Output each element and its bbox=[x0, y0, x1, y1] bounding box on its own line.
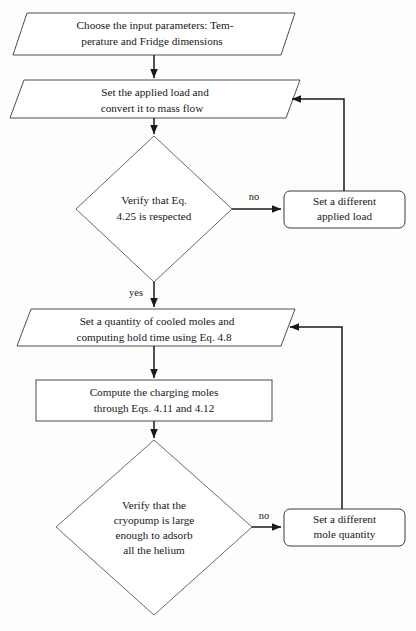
edge-label-yes-upper: yes bbox=[129, 287, 143, 298]
node-input-parameters: Choose the input parameters: Tem- peratu… bbox=[13, 13, 295, 55]
node-verify-eq-425-line-1: Verify that Eq. bbox=[121, 194, 187, 206]
node-verify-cryopump-line-1: Verify that the bbox=[122, 499, 186, 511]
node-cooled-moles-line-2: computing hold time using Eq. 4.8 bbox=[76, 331, 231, 343]
node-verify-cryopump: Verify that the cryopump is large enough… bbox=[56, 440, 252, 615]
node-different-mole-quantity-line-2: mole quantity bbox=[314, 528, 376, 540]
node-verify-cryopump-line-4: all the helium bbox=[123, 544, 185, 556]
flowchart-diagram: Choose the input parameters: Tem- peratu… bbox=[0, 0, 416, 631]
node-different-applied-load-line-2: applied load bbox=[317, 210, 372, 222]
node-verify-cryopump-line-3: enough to adsorb bbox=[115, 529, 192, 541]
node-input-parameters-line-1: Choose the input parameters: Tem- bbox=[77, 19, 234, 31]
node-different-mole-quantity-line-1: Set a different bbox=[313, 513, 377, 525]
connector-feedback-mole-quantity bbox=[290, 327, 342, 509]
node-different-mole-quantity: Set a different mole quantity bbox=[284, 509, 405, 546]
node-charging-moles-line-1: Compute the charging moles bbox=[90, 386, 219, 398]
node-verify-eq-425-line-2: 4.25 is respected bbox=[117, 210, 192, 222]
node-different-applied-load-line-1: Set a different bbox=[313, 195, 377, 207]
node-applied-load: Set the applied load and convert it to m… bbox=[10, 80, 300, 118]
node-input-parameters-line-2: perature and Fridge dimensions bbox=[81, 35, 222, 47]
edge-label-no-lower: no bbox=[259, 510, 270, 521]
node-cooled-moles-line-1: Set a quantity of cooled moles and bbox=[80, 315, 235, 327]
node-applied-load-line-1: Set the applied load and bbox=[101, 86, 209, 98]
node-charging-moles-line-2: through Eqs. 4.11 and 4.12 bbox=[94, 402, 214, 414]
node-applied-load-line-2: convert it to mass flow bbox=[101, 102, 204, 114]
node-verify-cryopump-line-2: cryopump is large bbox=[114, 514, 195, 526]
node-verify-eq-425: Verify that Eq. 4.25 is respected bbox=[76, 136, 232, 282]
node-different-applied-load: Set a different applied load bbox=[284, 191, 405, 228]
node-cooled-moles: Set a quantity of cooled moles and compu… bbox=[17, 309, 295, 346]
connector-feedback-applied-load bbox=[292, 99, 344, 191]
node-charging-moles: Compute the charging moles through Eqs. … bbox=[36, 380, 272, 421]
edge-label-no-upper: no bbox=[249, 191, 260, 202]
diamond-shape bbox=[56, 440, 252, 615]
